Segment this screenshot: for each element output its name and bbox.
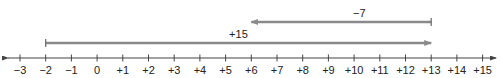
number-line-diagram: −3−2−10+1+2+3+4+5+6+7+8+9+10+11+12+13+14… (0, 0, 502, 78)
tick-label: +13 (422, 64, 441, 76)
jump-arrow-minus: −7 (251, 7, 431, 26)
tick-label: +4 (194, 64, 207, 76)
tick-label: −3 (14, 64, 27, 76)
tick-label: +10 (345, 64, 364, 76)
tick-label: +14 (448, 64, 467, 76)
tick-label: +6 (245, 64, 258, 76)
tick-label: +8 (296, 64, 309, 76)
tick-label: 0 (94, 64, 100, 76)
tick-label: +11 (371, 64, 389, 76)
tick-label: +1 (117, 64, 130, 76)
jump-arrow-plus: +15 (46, 28, 432, 47)
axis-tick-labels: −3−2−10+1+2+3+4+5+6+7+8+9+10+11+12+13+14… (14, 64, 492, 76)
tick-label: +15 (473, 64, 492, 76)
jump-label: +15 (229, 28, 248, 40)
tick-label: +5 (219, 64, 232, 76)
tick-label: +2 (142, 64, 155, 76)
tick-label: +7 (271, 64, 284, 76)
jump-label: −7 (353, 7, 366, 19)
tick-label: +3 (168, 64, 181, 76)
tick-label: −1 (65, 64, 78, 76)
tick-label: +9 (322, 64, 335, 76)
tick-label: −2 (39, 64, 52, 76)
jump-arrows: +15−7 (46, 7, 432, 47)
tick-label: +12 (396, 64, 415, 76)
